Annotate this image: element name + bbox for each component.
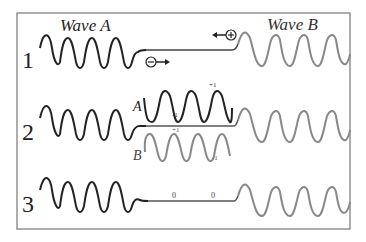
wave-interference-diagram: Wave A Wave B 1 2 A B +1 -1 +1 -1 3 0 0 bbox=[0, 0, 366, 242]
row-3-wave-a bbox=[40, 178, 148, 212]
row-2-b-minus: -1 bbox=[212, 154, 218, 162]
row-1-wave-a bbox=[40, 35, 146, 68]
electron-icon bbox=[146, 57, 170, 67]
row-3-zero-right: 0 bbox=[211, 191, 215, 200]
row-2-a-minus: -1 bbox=[172, 111, 178, 119]
row-2-wave-b bbox=[238, 109, 350, 142]
row-2-label-b: B bbox=[133, 148, 142, 163]
row-2-label-a: A bbox=[132, 99, 142, 114]
row-1-wave-b bbox=[238, 33, 350, 66]
row-2-wave-a bbox=[40, 106, 146, 140]
positron-icon bbox=[212, 30, 236, 40]
row-2-number: 2 bbox=[22, 119, 34, 145]
row-2-split-wave-a bbox=[144, 91, 232, 122]
row-2-b-plus: +1 bbox=[172, 126, 180, 134]
row-2-line bbox=[146, 120, 238, 126]
row-3-number: 3 bbox=[22, 191, 34, 217]
row-3-line bbox=[148, 196, 238, 201]
row-3-wave-b bbox=[238, 185, 350, 216]
figure-frame bbox=[17, 13, 350, 229]
row-3-zero-left: 0 bbox=[172, 191, 176, 200]
row-1-line bbox=[146, 44, 238, 50]
wave-b-title: Wave B bbox=[267, 15, 318, 34]
row-1-number: 1 bbox=[22, 47, 34, 73]
wave-a-title: Wave A bbox=[60, 16, 111, 35]
row-2-a-plus: +1 bbox=[209, 81, 217, 89]
